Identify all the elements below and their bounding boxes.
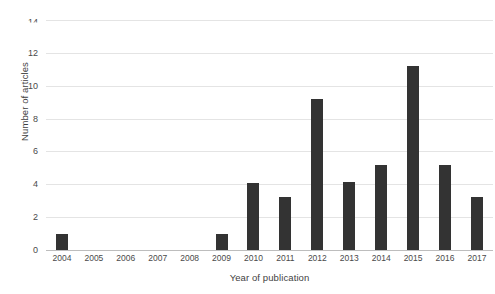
bar-slot-2013 [333, 20, 365, 250]
x-tick-label-2014: 2014 [365, 253, 397, 263]
x-tick-label-2005: 2005 [78, 253, 110, 263]
bar-2011[interactable] [279, 197, 291, 250]
x-tick-label-2007: 2007 [142, 253, 174, 263]
y-tick-label-6: 6 [33, 146, 38, 156]
y-tick-label-8: 8 [33, 114, 38, 124]
bar-slot-2009 [206, 20, 238, 250]
x-tick-label-2017: 2017 [461, 253, 493, 263]
x-tick-label-2011: 2011 [269, 253, 301, 263]
bar-2013[interactable] [343, 182, 355, 250]
bar-2010[interactable] [247, 183, 259, 250]
bar-2012[interactable] [311, 99, 323, 250]
y-tick-label-14: 14 [28, 18, 38, 23]
bar-slot-2017 [461, 20, 493, 250]
x-tick-label-2010: 2010 [238, 253, 270, 263]
x-tick-label-2004: 2004 [46, 253, 78, 263]
x-axis-title: Year of publication [46, 272, 493, 283]
x-tick-label-2009: 2009 [206, 253, 238, 263]
gridline-0 [46, 250, 493, 251]
bar-slot-2012 [301, 20, 333, 250]
bar-slot-2010 [238, 20, 270, 250]
plot-area [46, 20, 493, 250]
y-axis-tick-labels: 02468101214 [0, 20, 44, 250]
bar-slot-2007 [142, 20, 174, 250]
x-tick-label-2008: 2008 [174, 253, 206, 263]
bar-slot-2004 [46, 20, 78, 250]
bar-2009[interactable] [216, 234, 228, 250]
bar-2004[interactable] [56, 234, 68, 250]
y-tick-label-12: 12 [28, 48, 38, 58]
bar-slot-2005 [78, 20, 110, 250]
y-tick-label-10: 10 [28, 81, 38, 91]
bar-chart: Number of articles 02468101214 200420052… [0, 0, 495, 294]
y-tick-label-2: 2 [33, 212, 38, 222]
y-tick-label-0: 0 [33, 245, 38, 255]
bar-2015[interactable] [407, 66, 419, 250]
bar-slot-2016 [429, 20, 461, 250]
bar-2016[interactable] [439, 165, 451, 250]
bar-slot-2006 [110, 20, 142, 250]
x-tick-label-2015: 2015 [397, 253, 429, 263]
x-tick-label-2012: 2012 [301, 253, 333, 263]
x-tick-label-2016: 2016 [429, 253, 461, 263]
bar-series [46, 20, 493, 250]
bar-slot-2008 [174, 20, 206, 250]
y-tick-label-4: 4 [33, 179, 38, 189]
x-tick-label-2006: 2006 [110, 253, 142, 263]
bar-slot-2011 [269, 20, 301, 250]
bar-slot-2014 [365, 20, 397, 250]
bar-2014[interactable] [375, 165, 387, 250]
x-tick-label-2013: 2013 [333, 253, 365, 263]
x-axis-tick-labels: 2004200520062007200820092010201120122013… [46, 253, 493, 263]
bar-2017[interactable] [471, 197, 483, 250]
bar-slot-2015 [397, 20, 429, 250]
